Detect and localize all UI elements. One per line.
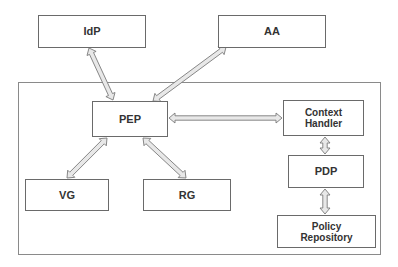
node-aa-label: AA xyxy=(264,25,280,37)
node-policy-repository-label: Policy Repository xyxy=(300,221,352,243)
node-pdp[interactable]: PDP xyxy=(288,155,364,188)
node-context-handler[interactable]: Context Handler xyxy=(283,100,364,136)
node-idp-label: IdP xyxy=(83,25,100,37)
node-vg-label: VG xyxy=(59,189,75,201)
arrow-aa-pep xyxy=(153,47,226,102)
node-rg-label: RG xyxy=(179,189,196,201)
arrow-idp-pep xyxy=(87,48,115,100)
arrow-pep-vg xyxy=(67,138,107,178)
node-vg[interactable]: VG xyxy=(25,179,109,211)
node-aa[interactable]: AA xyxy=(218,15,326,48)
node-idp[interactable]: IdP xyxy=(38,15,146,48)
node-pep-label: PEP xyxy=(119,113,141,125)
node-context-handler-label: Context Handler xyxy=(305,107,342,129)
node-pdp-label: PDP xyxy=(315,165,338,177)
arrow-pep-context-handler xyxy=(169,113,282,123)
arrow-pdp-policy-repository xyxy=(320,189,330,214)
node-policy-repository[interactable]: Policy Repository xyxy=(277,215,376,248)
arrow-pep-rg xyxy=(143,138,186,178)
arrow-context-handler-pdp xyxy=(320,137,330,154)
node-rg[interactable]: RG xyxy=(143,179,231,211)
node-pep[interactable]: PEP xyxy=(92,101,168,137)
